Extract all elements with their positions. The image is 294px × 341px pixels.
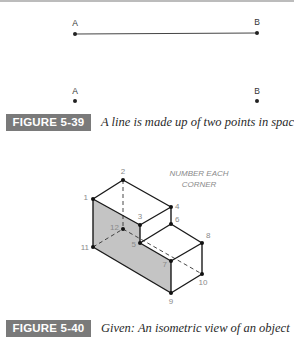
figure-5-39-label: FIGURE 5-39 (6, 114, 91, 131)
figure-5-40-caption: Given: An isometric view of an object (101, 320, 290, 337)
corner-label-7: 7 (163, 260, 168, 269)
corner-label-10: 10 (199, 278, 208, 287)
figures-canvas: A B A B (0, 0, 294, 341)
figure-5-39-caption: A line is made up of two points in space (101, 114, 294, 131)
figure-5-40-label: FIGURE 5-40 (6, 320, 91, 337)
note-line-1: NUMBER EACH (169, 169, 228, 178)
corner-label-6: 6 (175, 215, 180, 224)
corner-label-8: 8 (206, 231, 211, 240)
point-a-bottom (73, 99, 77, 103)
line-ab-diagram: A B A B (72, 17, 260, 103)
point-a-label-bottom: A (72, 86, 78, 96)
point-a-top (73, 32, 77, 36)
isometric-object-diagram: 1 2 3 4 5 6 7 8 9 10 11 12 NUMBER EACH C… (81, 167, 229, 306)
corner-label-12: 12 (110, 223, 119, 232)
corner-label-1: 1 (84, 193, 89, 202)
corner-label-4: 4 (175, 202, 180, 211)
corner-label-3: 3 (138, 212, 143, 221)
corner-label-2: 2 (121, 167, 126, 176)
point-b-bottom (255, 99, 259, 103)
point-b-label-top: B (254, 17, 260, 27)
note-line-2: CORNER (182, 180, 217, 189)
line-segment-ab (75, 33, 257, 34)
corner-label-5: 5 (132, 240, 137, 249)
corner-label-11: 11 (81, 243, 90, 252)
point-a-label-top: A (72, 18, 78, 28)
corner-label-9: 9 (169, 297, 174, 306)
point-b-top (255, 31, 259, 35)
point-b-label-bottom: B (254, 86, 260, 96)
